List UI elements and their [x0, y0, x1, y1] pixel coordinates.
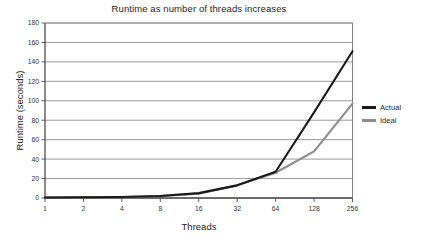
svg-text:1: 1: [43, 205, 47, 212]
plot-frame: [45, 23, 353, 198]
chart-container: Runtime as number of threads increases R…: [0, 0, 428, 242]
svg-text:8: 8: [158, 205, 162, 212]
svg-text:2: 2: [82, 205, 86, 212]
svg-text:64: 64: [272, 205, 280, 212]
data-series: [45, 51, 353, 197]
svg-text:40: 40: [31, 156, 39, 163]
chart-legend: Actual Ideal: [362, 101, 401, 127]
legend-item-ideal: Ideal: [362, 114, 401, 127]
svg-text:120: 120: [28, 78, 40, 85]
svg-text:100: 100: [28, 97, 40, 104]
svg-text:256: 256: [347, 205, 359, 212]
x-axis-ticks: 1248163264128256: [43, 198, 358, 212]
svg-text:180: 180: [28, 19, 40, 26]
svg-text:4: 4: [120, 205, 124, 212]
legend-swatch-ideal: [362, 119, 376, 121]
svg-text:0: 0: [35, 194, 39, 201]
svg-text:16: 16: [195, 205, 203, 212]
gridlines: [45, 23, 353, 198]
y-axis-ticks: 020406080100120140160180: [28, 19, 45, 201]
legend-label-actual: Actual: [380, 103, 401, 112]
legend-label-ideal: Ideal: [380, 116, 396, 125]
svg-text:140: 140: [28, 58, 40, 65]
svg-text:20: 20: [31, 175, 39, 182]
svg-text:80: 80: [31, 117, 39, 124]
svg-text:160: 160: [28, 39, 40, 46]
legend-item-actual: Actual: [362, 101, 401, 114]
svg-text:32: 32: [233, 205, 241, 212]
svg-text:128: 128: [308, 205, 320, 212]
legend-swatch-actual: [362, 106, 376, 108]
svg-text:60: 60: [31, 136, 39, 143]
x-axis-label: Threads: [45, 221, 353, 232]
